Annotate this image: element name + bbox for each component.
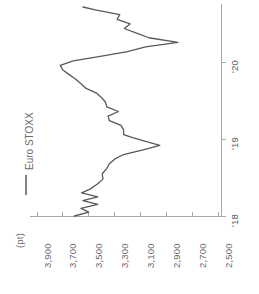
legend-label-euro-stoxx: Euro STOXX bbox=[24, 112, 35, 170]
time-axis-tick-label: '18 bbox=[229, 214, 240, 227]
value-axis-tick-label: 3,300 bbox=[119, 243, 130, 268]
time-axis-ticks bbox=[222, 62, 226, 216]
axes-group bbox=[30, 4, 222, 217]
value-axis-tick-label: 2,700 bbox=[197, 243, 208, 268]
value-axis-tick-label: 3,900 bbox=[42, 243, 53, 268]
series-line-euro-stoxx bbox=[60, 7, 178, 216]
series-group bbox=[60, 7, 178, 216]
time-axis-tick-label: '20 bbox=[229, 60, 240, 73]
value-axis-unit-label: (pt) bbox=[14, 233, 25, 248]
euro-stoxx-chart: Euro STOXX 3,9003,7003,5003,3003,1002,90… bbox=[0, 0, 259, 294]
value-axis-tick-label: 3,500 bbox=[93, 243, 104, 268]
value-axis-tick-label: 2,500 bbox=[223, 243, 234, 268]
value-axis-tick-label: 2,900 bbox=[171, 243, 182, 268]
value-axis-tick-label: 3,100 bbox=[145, 243, 156, 268]
value-axis-ticks bbox=[37, 212, 218, 217]
time-axis-tick-label: '19 bbox=[229, 137, 240, 150]
value-axis-tick-label: 3,700 bbox=[67, 243, 78, 268]
